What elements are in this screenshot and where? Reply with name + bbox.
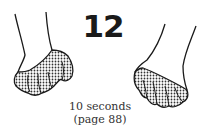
left-hand-illustration xyxy=(0,0,85,100)
caption-page-reference: (page 88) xyxy=(50,114,150,126)
right-hand-illustration xyxy=(125,20,206,110)
figure-number: 12 xyxy=(82,8,124,44)
caption-duration: 10 seconds xyxy=(50,101,150,113)
